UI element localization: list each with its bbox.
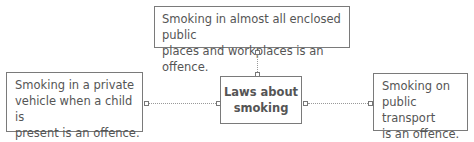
left-node: Smoking in a private vehicle when a chil… bbox=[6, 72, 143, 132]
connector-nub bbox=[255, 50, 260, 55]
center-node: Laws about smoking bbox=[220, 76, 302, 124]
connector-nub bbox=[368, 101, 373, 106]
right-node-line1: Smoking on bbox=[382, 78, 467, 94]
right-node-line2: public transport bbox=[382, 94, 467, 126]
connector-top bbox=[257, 52, 258, 74]
connector-nub bbox=[303, 101, 308, 106]
left-node-line2: vehicle when a child is bbox=[15, 93, 142, 125]
connector-nub bbox=[216, 101, 221, 106]
center-node-line1: Laws about bbox=[221, 84, 301, 100]
right-node: Smoking on public transport is an offenc… bbox=[373, 73, 468, 131]
top-node-line1: Smoking in almost all enclosed public bbox=[162, 11, 349, 43]
center-node-line2: smoking bbox=[221, 100, 301, 116]
connector-nub bbox=[144, 101, 149, 106]
left-node-line3: present is an offence. bbox=[15, 125, 142, 141]
top-node-line2: places and workplaces is an offence. bbox=[162, 43, 349, 75]
connector-left bbox=[148, 103, 216, 104]
connector-right bbox=[308, 103, 370, 104]
top-node: Smoking in almost all enclosed public pl… bbox=[154, 6, 350, 48]
left-node-line1: Smoking in a private bbox=[15, 77, 142, 93]
right-node-line3: is an offence. bbox=[382, 126, 467, 142]
